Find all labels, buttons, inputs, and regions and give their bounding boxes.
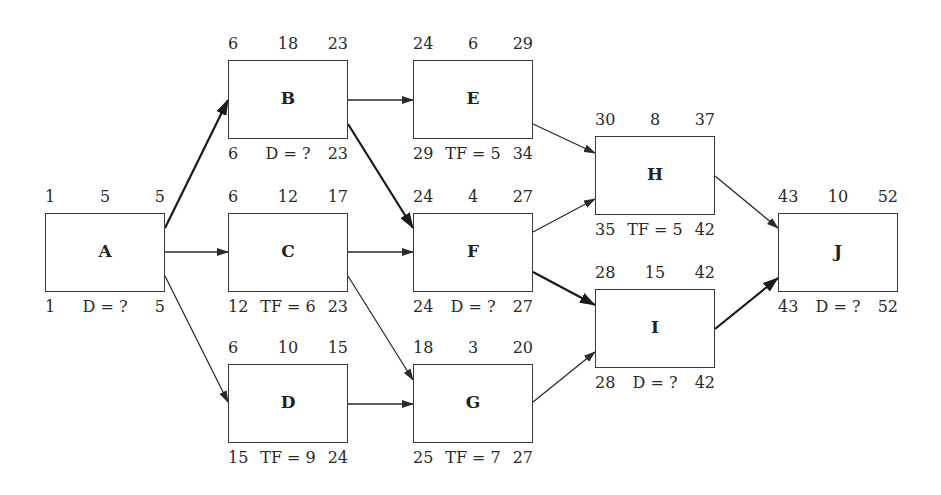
node-h: H 30 8 37 35 TF = 5 42 [595, 136, 715, 215]
late-finish: 52 [878, 299, 898, 315]
node-j: J 43 10 52 43 D = ? 52 [778, 213, 898, 292]
early-finish: 17 [328, 189, 348, 205]
early-finish: 20 [513, 340, 533, 356]
late-finish: 23 [328, 146, 348, 162]
edge-f-i-arrow-icon [533, 272, 595, 305]
float-or-duration: D = ? [45, 299, 165, 315]
late-finish: 42 [695, 222, 715, 238]
activity-label: B [228, 88, 348, 108]
node-g: G 18 3 20 25 TF = 7 27 [413, 364, 533, 443]
edge-e-h-arrow-icon [533, 124, 595, 153]
node-f: F 24 4 27 24 D = ? 27 [413, 213, 533, 292]
network-diagram: A 1 5 5 1 D = ? 5 B 6 18 23 6 D = ? 23 C… [0, 0, 941, 495]
late-finish: 27 [513, 450, 533, 466]
edge-a-b-arrow-icon [165, 100, 228, 228]
late-finish: 27 [513, 299, 533, 315]
edge-f-h-arrow-icon [533, 199, 595, 232]
early-finish: 27 [513, 189, 533, 205]
duration: 5 [45, 189, 165, 205]
early-finish: 52 [878, 189, 898, 205]
activity-label: J [778, 241, 898, 261]
activity-label: I [595, 317, 715, 337]
late-finish: 34 [513, 146, 533, 162]
activity-label: E [413, 88, 533, 108]
node-d: D 6 10 15 15 TF = 9 24 [228, 364, 348, 443]
node-i: I 28 15 42 28 D = ? 42 [595, 289, 715, 368]
activity-label: H [595, 164, 715, 184]
edge-c-g-arrow-icon [348, 276, 413, 380]
node-e: E 24 6 29 29 TF = 5 34 [413, 60, 533, 139]
activity-label: F [413, 241, 533, 261]
activity-label: G [413, 392, 533, 412]
node-a: A 1 5 5 1 D = ? 5 [45, 213, 165, 292]
edge-b-f-arrow-icon [348, 124, 413, 228]
activity-label: C [228, 241, 348, 261]
early-finish: 5 [155, 189, 165, 205]
early-finish: 15 [328, 340, 348, 356]
edge-h-j-arrow-icon [715, 176, 778, 228]
late-finish: 24 [328, 450, 348, 466]
early-finish: 23 [328, 36, 348, 52]
node-c: C 6 12 17 12 TF = 6 23 [228, 213, 348, 292]
early-finish: 37 [695, 112, 715, 128]
late-finish: 5 [155, 299, 165, 315]
node-b: B 6 18 23 6 D = ? 23 [228, 60, 348, 139]
late-finish: 23 [328, 299, 348, 315]
activity-label: A [45, 241, 165, 261]
edge-a-d-arrow-icon [165, 276, 228, 402]
early-finish: 29 [513, 36, 533, 52]
edge-i-j-arrow-icon [715, 278, 778, 329]
late-finish: 42 [695, 375, 715, 391]
activity-label: D [228, 392, 348, 412]
edge-g-i-arrow-icon [533, 352, 595, 402]
early-finish: 42 [695, 265, 715, 281]
